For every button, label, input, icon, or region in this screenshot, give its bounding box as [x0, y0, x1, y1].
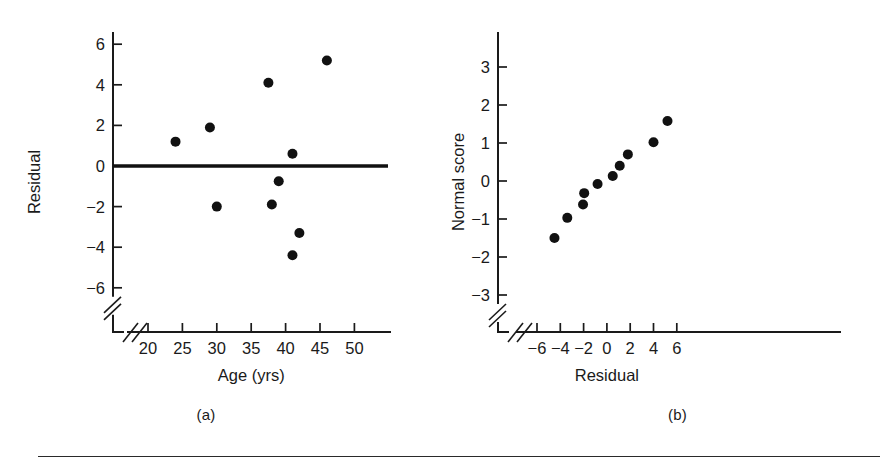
data-point: [287, 250, 297, 260]
panel-a: 6420−2−4−620253035404550Age (yrs)Residua…: [0, 0, 440, 440]
y-tick-label: −2: [86, 198, 105, 216]
y-tick-label: 1: [481, 134, 490, 152]
data-point: [578, 200, 588, 210]
data-point: [287, 149, 297, 159]
data-point: [579, 188, 589, 198]
x-tick-label: 30: [208, 339, 226, 357]
y-tick-label: 2: [96, 116, 105, 134]
scatter-plot-normal-score-vs-residual: 3210−1−2−3−6−4−20246ResidualNormal score: [440, 0, 887, 400]
y-tick-label: −3: [471, 286, 490, 304]
x-tick-label: 25: [173, 339, 191, 357]
x-tick-label: 2: [626, 339, 635, 357]
footer-divider-rule: [38, 456, 880, 457]
y-axis-title: Residual: [25, 150, 43, 214]
data-point: [171, 137, 181, 147]
panel-b-caption: (b): [454, 406, 887, 423]
data-point: [263, 78, 273, 88]
data-point: [274, 176, 284, 186]
y-axis-title: Normal score: [449, 133, 467, 231]
scatter-plot-residual-vs-age: 6420−2−4−620253035404550Age (yrs)Residua…: [0, 0, 440, 400]
y-tick-label: 0: [481, 172, 490, 190]
y-tick-label: −6: [86, 279, 105, 297]
data-point: [212, 202, 222, 212]
panel-b: 3210−1−2−3−6−4−20246ResidualNormal score…: [440, 0, 887, 440]
panel-a-caption: (a): [0, 406, 426, 423]
data-point: [294, 228, 304, 238]
data-point: [562, 213, 572, 223]
x-axis-title: Age (yrs): [218, 366, 285, 384]
data-point: [593, 179, 603, 189]
y-tick-label: −2: [471, 248, 490, 266]
x-tick-label: 0: [602, 339, 611, 357]
x-tick-label: −6: [528, 339, 547, 357]
data-point: [662, 116, 672, 126]
y-tick-label: 3: [481, 58, 490, 76]
y-tick-label: −1: [471, 210, 490, 228]
x-tick-label: 6: [672, 339, 681, 357]
x-tick-label: −2: [574, 339, 593, 357]
data-point: [649, 137, 659, 147]
data-point: [549, 233, 559, 243]
data-point: [205, 122, 215, 132]
figure-root: 6420−2−4−620253035404550Age (yrs)Residua…: [0, 0, 887, 467]
y-axis-break-mark: [104, 297, 121, 313]
data-point: [608, 171, 618, 181]
x-tick-label: 45: [311, 339, 329, 357]
x-tick-label: 40: [276, 339, 294, 357]
data-point: [267, 200, 277, 210]
y-tick-label: 0: [96, 157, 105, 175]
x-tick-label: 4: [649, 339, 658, 357]
x-tick-label: 35: [242, 339, 260, 357]
data-point: [322, 55, 332, 65]
y-tick-label: 4: [96, 76, 105, 94]
y-tick-label: 6: [96, 35, 105, 53]
y-axis-break-mark: [489, 304, 506, 320]
y-tick-label: −4: [86, 238, 105, 256]
data-point: [623, 149, 633, 159]
x-tick-label: 50: [345, 339, 363, 357]
x-tick-label: −4: [551, 339, 570, 357]
data-point: [615, 161, 625, 171]
x-tick-label: 20: [139, 339, 157, 357]
y-tick-label: 2: [481, 96, 490, 114]
x-axis-title: Residual: [575, 366, 639, 384]
